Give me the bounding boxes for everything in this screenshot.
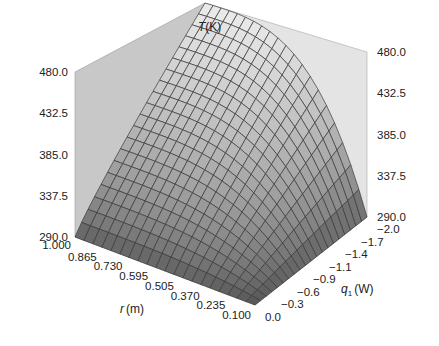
z-tick-left: 480.0 bbox=[39, 66, 68, 78]
q-tick: −1.4 bbox=[345, 248, 368, 260]
r-tick: 0.235 bbox=[197, 299, 226, 311]
z-tick-right: 385.0 bbox=[377, 129, 406, 141]
q-tick: −1.1 bbox=[329, 261, 352, 273]
z-tick-left: 432.5 bbox=[39, 107, 68, 119]
r-tick: 0.730 bbox=[94, 260, 123, 272]
r-tick: 0.100 bbox=[222, 309, 251, 321]
z-tick-left: 337.5 bbox=[39, 190, 68, 202]
q-tick: −0.9 bbox=[313, 273, 336, 285]
z-tick-right: 480.0 bbox=[377, 46, 406, 58]
z-tick-right: 432.5 bbox=[377, 87, 406, 99]
q-tick: 0.0 bbox=[265, 311, 281, 323]
q-tick: −0.3 bbox=[281, 298, 304, 310]
r-axis-label: r(m) bbox=[120, 302, 144, 316]
z-tick-right: 337.5 bbox=[377, 170, 406, 182]
q-tick: −1.7 bbox=[361, 236, 384, 248]
q-axis-label: q1(W) bbox=[341, 282, 373, 298]
r-tick: 0.595 bbox=[119, 270, 148, 282]
surface-plot: 290.0290.0337.5337.5385.0385.0432.5432.5… bbox=[0, 0, 439, 346]
r-tick: 0.370 bbox=[171, 290, 200, 302]
z-tick-left: 385.0 bbox=[39, 149, 68, 161]
r-tick: 0.865 bbox=[68, 251, 97, 263]
r-tick: 0.505 bbox=[145, 280, 174, 292]
z-tick-right: 290.0 bbox=[377, 211, 406, 223]
q-tick: −2.0 bbox=[377, 223, 400, 235]
r-tick: 1.000 bbox=[42, 239, 71, 251]
z-axis-label: T(K) bbox=[198, 20, 221, 34]
q-tick: −0.6 bbox=[297, 286, 320, 298]
